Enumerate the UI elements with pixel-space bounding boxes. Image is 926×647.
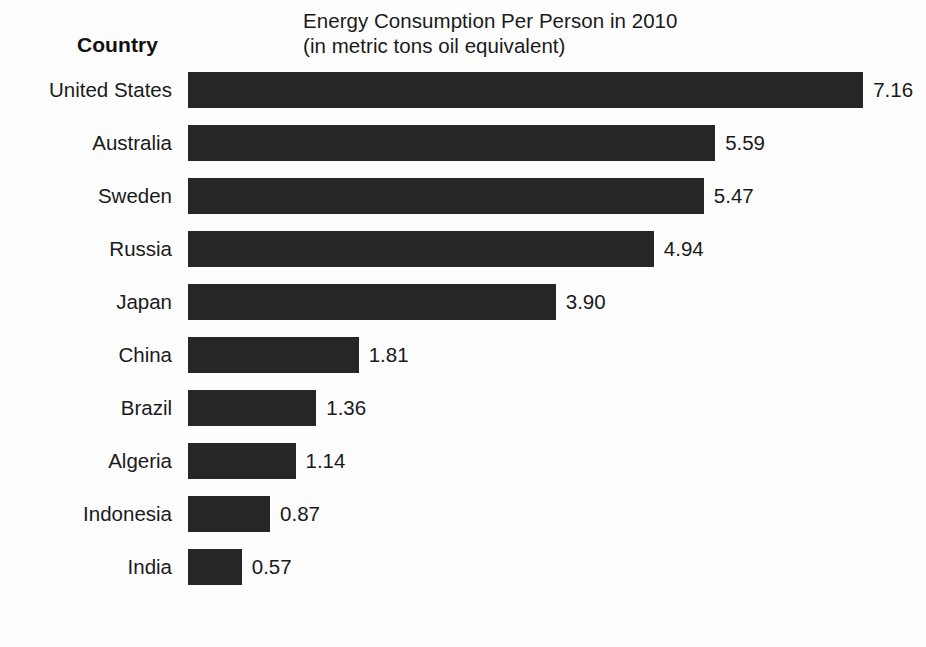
bar xyxy=(188,337,359,373)
bar-value-label: 5.59 xyxy=(725,125,765,161)
chart-title: Energy Consumption Per Person in 2010 xyxy=(303,8,677,33)
chart-title-block: Energy Consumption Per Person in 2010 (i… xyxy=(303,8,677,59)
category-label: Australia xyxy=(0,125,172,161)
bar xyxy=(188,178,704,214)
bar-value-label: 1.36 xyxy=(326,390,366,426)
category-label: Brazil xyxy=(0,390,172,426)
bar xyxy=(188,125,715,161)
bar-row: Russia4.94 xyxy=(0,231,926,267)
bar-value-label: 4.94 xyxy=(664,231,704,267)
bar-value-label: 3.90 xyxy=(566,284,606,320)
category-label: Japan xyxy=(0,284,172,320)
category-label: Algeria xyxy=(0,443,172,479)
bar-value-label: 0.87 xyxy=(280,496,320,532)
bar-row: Brazil1.36 xyxy=(0,390,926,426)
bar-row: Japan3.90 xyxy=(0,284,926,320)
country-column-header: Country xyxy=(20,33,215,57)
bar-with-value: 0.57 xyxy=(188,549,292,585)
category-label: India xyxy=(0,549,172,585)
bar xyxy=(188,443,296,479)
bar xyxy=(188,390,316,426)
bar-row: India0.57 xyxy=(0,549,926,585)
bar xyxy=(188,496,270,532)
bar-chart: Country Energy Consumption Per Person in… xyxy=(0,0,926,647)
plot-area: United States7.16Australia5.59Sweden5.47… xyxy=(0,72,926,647)
chart-subtitle: (in metric tons oil equivalent) xyxy=(303,33,677,58)
bar-row: China1.81 xyxy=(0,337,926,373)
bar-with-value: 1.14 xyxy=(188,443,345,479)
bar-with-value: 1.36 xyxy=(188,390,366,426)
bar xyxy=(188,549,242,585)
bar-row: Algeria1.14 xyxy=(0,443,926,479)
bar-value-label: 0.57 xyxy=(252,549,292,585)
bar-row: Australia5.59 xyxy=(0,125,926,161)
bar xyxy=(188,231,654,267)
bar-value-label: 5.47 xyxy=(714,178,754,214)
bar-with-value: 0.87 xyxy=(188,496,320,532)
bar xyxy=(188,284,556,320)
bar xyxy=(188,72,863,108)
category-label: United States xyxy=(0,72,172,108)
chart-header: Country Energy Consumption Per Person in… xyxy=(0,0,926,72)
bar-with-value: 5.47 xyxy=(188,178,754,214)
bar-with-value: 4.94 xyxy=(188,231,704,267)
category-label: Indonesia xyxy=(0,496,172,532)
bar-with-value: 7.16 xyxy=(188,72,913,108)
bar-row: Sweden5.47 xyxy=(0,178,926,214)
bar-value-label: 1.14 xyxy=(306,443,346,479)
bar-row: United States7.16 xyxy=(0,72,926,108)
category-label: China xyxy=(0,337,172,373)
category-label: Sweden xyxy=(0,178,172,214)
bar-with-value: 3.90 xyxy=(188,284,606,320)
bar-with-value: 1.81 xyxy=(188,337,409,373)
category-label: Russia xyxy=(0,231,172,267)
bar-with-value: 5.59 xyxy=(188,125,765,161)
bar-row: Indonesia0.87 xyxy=(0,496,926,532)
bar-value-label: 1.81 xyxy=(369,337,409,373)
bar-value-label: 7.16 xyxy=(873,72,913,108)
